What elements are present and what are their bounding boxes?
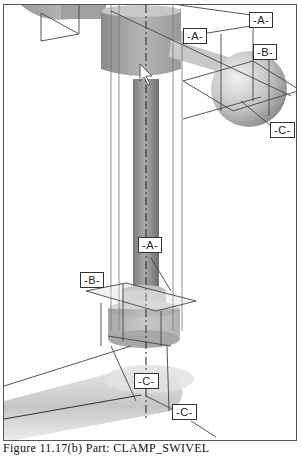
figure-frame: -A- -A- -B- -C- -A- -B- -C- -C- — [3, 4, 297, 441]
datum-label-a: -A- — [249, 12, 273, 28]
datum-label-c: -C- — [134, 373, 159, 389]
datum-label-b: -B- — [253, 44, 277, 60]
datum-label-c: -C- — [172, 404, 197, 420]
datum-label-b: -B- — [80, 272, 104, 288]
datum-label-a: -A- — [138, 237, 162, 253]
figure-caption: Figure 11.17(b) Part: CLAMP_SWIVEL — [3, 441, 209, 456]
datum-label-c: -C- — [270, 122, 295, 138]
datum-label-a: -A- — [183, 28, 207, 44]
